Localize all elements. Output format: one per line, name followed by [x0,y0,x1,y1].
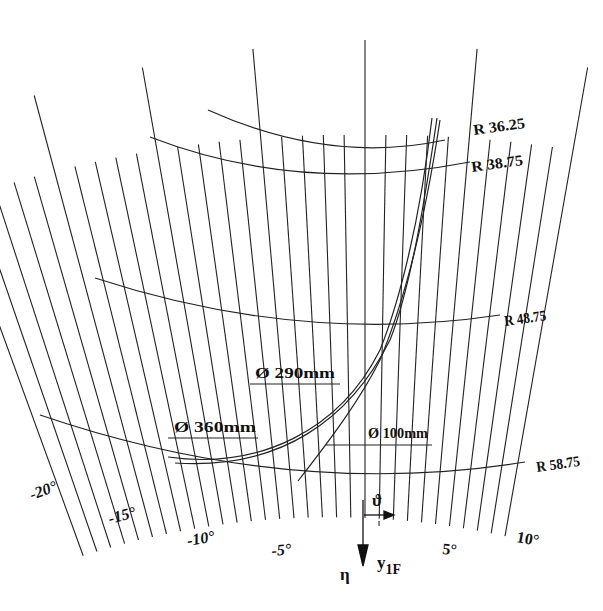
arc-r48-75 [95,278,500,324]
arc-r36-25 [208,110,445,148]
radial-line-minus-19 [0,195,97,552]
radial-line-minus-12 [116,158,195,529]
right-arrow-icon [384,511,394,519]
curve-label-100mm: Ø 100mm [368,425,428,441]
radial-line-1 [379,135,386,519]
radial-line-5 [436,49,478,524]
angle-label-10: 10° [515,528,540,549]
angle-label-minus-20: -20° [27,477,59,503]
radial-line-minus-1 [344,135,351,518]
radius-arcs [40,110,525,474]
radial-line-minus-9 [178,147,238,523]
radial-line-minus-13 [95,162,180,531]
polar-grid-diagram: R 36.25 R 38.75 R 48.75 R 58.75 Ø 360mm … [0,0,603,611]
curve-290mm [175,118,437,464]
radial-line-9 [491,147,552,533]
angle-label-5: 5° [442,540,458,558]
radial-line-minus-7 [219,142,265,520]
y1f-label: y1F [377,553,401,577]
angle-label-minus-10: -10° [186,527,217,549]
y-axis-subscript: 1F [386,562,402,577]
radial-line-minus-2 [323,135,336,517]
radial-line-minus-11 [136,154,208,527]
down-arrow-icon [358,545,368,566]
eta-symbol: η [340,565,350,584]
curve-360mm [168,118,432,459]
theta-symbol: ϑ [372,491,382,510]
radius-label-36-25: R 36.25 [472,115,526,138]
curve-label-360mm: Ø 360mm [174,419,257,435]
angle-label-minus-5: -5° [271,540,293,559]
radial-line-2 [393,135,406,520]
arc-r58-75 [40,415,525,474]
radial-line-minus-6 [240,140,280,519]
radius-label-48-75: R 48.75 [503,307,547,329]
radius-label-38-75: R 38.75 [470,152,524,175]
radial-line-8 [477,144,531,530]
radius-label-58-75: R 58.75 [535,453,581,475]
radial-line-minus-4 [282,137,309,518]
radial-line-7 [463,142,511,528]
radial-line-minus-3 [302,136,322,518]
curve-label-290mm: Ø 290mm [255,365,336,381]
